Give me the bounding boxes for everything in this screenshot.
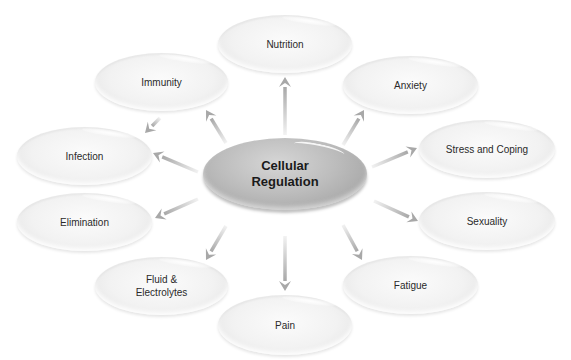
node-label: Sexuality xyxy=(467,215,508,228)
node-label: Pain xyxy=(275,319,295,332)
node-label: Fluid & Electrolytes xyxy=(136,273,188,299)
arrow-to-fluid-icon xyxy=(206,226,226,260)
arrow-to-anxiety-icon xyxy=(343,110,364,145)
arrow-to-sexuality-icon xyxy=(374,201,418,222)
node-label: Nutrition xyxy=(266,38,303,51)
node-label: Anxiety xyxy=(394,79,427,92)
center-node-label: Cellular Regulation xyxy=(251,158,318,190)
node-label: Immunity xyxy=(141,76,182,89)
node-elimination: Elimination xyxy=(17,193,152,251)
arrow-to-infection-icon xyxy=(145,118,160,133)
node-label: Elimination xyxy=(60,216,109,229)
node-label: Stress and Coping xyxy=(446,143,528,156)
arrow-to-stress-icon xyxy=(372,146,417,167)
node-sexuality: Sexuality xyxy=(419,192,555,250)
node-nutrition: Nutrition xyxy=(218,15,352,73)
center-node-cellular-regulation: Cellular Regulation xyxy=(203,138,367,210)
node-infection: Infection xyxy=(17,127,152,185)
arrow-to-infection-icon xyxy=(153,151,198,172)
arrow-to-pain-icon xyxy=(279,236,291,291)
node-label: Infection xyxy=(66,150,104,163)
node-fluid: Fluid & Electrolytes xyxy=(95,257,228,315)
arrow-to-elimination-icon xyxy=(155,199,198,219)
node-label: Fatigue xyxy=(394,279,427,292)
node-anxiety: Anxiety xyxy=(343,56,478,114)
concept-map-canvas: NutritionImmunityAnxietyInfectionStress … xyxy=(0,0,571,360)
arrow-to-nutrition-icon xyxy=(279,77,291,135)
arrow-to-immunity-icon xyxy=(206,110,226,143)
node-stress: Stress and Coping xyxy=(419,120,555,178)
node-pain: Pain xyxy=(218,295,352,355)
node-fatigue: Fatigue xyxy=(343,256,478,314)
node-immunity: Immunity xyxy=(95,53,228,111)
arrow-to-fatigue-icon xyxy=(343,225,363,260)
